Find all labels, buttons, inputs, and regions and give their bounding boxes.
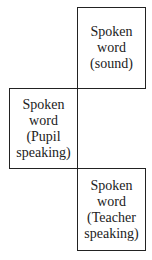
box-line: (Pupil: [16, 129, 70, 145]
box-line: speaking): [16, 145, 70, 161]
box-line: word: [84, 194, 138, 210]
box-spoken-word-teacher-speaking: Spoken word (Teacher speaking): [77, 168, 146, 251]
box-line: word: [16, 113, 70, 129]
box-line: word: [90, 40, 133, 56]
box-label: Spoken word (Pupil speaking): [16, 97, 70, 161]
box-line: Spoken: [16, 97, 70, 113]
box-spoken-word-pupil-speaking: Spoken word (Pupil speaking): [9, 88, 78, 169]
box-line: speaking): [84, 226, 138, 242]
box-line: Spoken: [84, 178, 138, 194]
box-spoken-word-sound: Spoken word (sound): [77, 7, 146, 89]
box-line: Spoken: [90, 24, 133, 40]
box-label: Spoken word (Teacher speaking): [84, 178, 138, 242]
box-label: Spoken word (sound): [90, 24, 133, 72]
box-line: (sound): [90, 56, 133, 72]
box-line: (Teacher: [84, 210, 138, 226]
